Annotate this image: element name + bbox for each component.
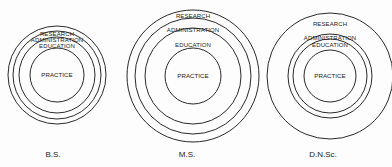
concentric-circles-figure: RESEARCH ADMINISTRATION EDUCATION PRACTI… (0, 0, 392, 167)
degree-label-ms: M.S. (179, 150, 195, 159)
label-administration: ADMINISTRATION (167, 27, 219, 33)
label-research: RESEARCH (313, 21, 347, 27)
label-research: RESEARCH (176, 13, 210, 19)
circles-canvas: RESEARCH ADMINISTRATION EDUCATION PRACTI… (0, 0, 392, 167)
label-practice: PRACTICE (314, 72, 345, 79)
diagram-bs: RESEARCH ADMINISTRATION EDUCATION PRACTI… (8, 26, 106, 124)
degree-label-dnsc: D.N.Sc. (309, 150, 337, 159)
diagram-dnsc: RESEARCH ADMINISTRATION EDUCATION PRACTI… (267, 13, 392, 139)
label-practice: PRACTICE (177, 72, 208, 79)
degree-label-bs: B.S. (45, 150, 60, 159)
label-education: EDUCATION (312, 42, 348, 48)
label-education: EDUCATION (175, 42, 211, 48)
label-practice: PRACTICE (41, 71, 72, 78)
diagram-ms: RESEARCH ADMINISTRATION EDUCATION PRACTI… (127, 10, 259, 142)
label-administration: ADMINISTRATION (304, 35, 356, 41)
label-education: EDUCATION (39, 43, 75, 49)
